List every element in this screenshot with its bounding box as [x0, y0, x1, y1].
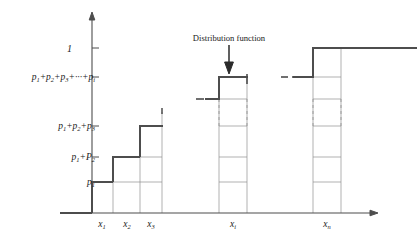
x-tick-label-xi: xi — [230, 219, 236, 229]
x-tick-label-x2: x2 — [123, 219, 130, 229]
y-tick-label-p1p2: p1+P2 — [72, 152, 95, 162]
y-tick-label-p1: p1 — [87, 177, 95, 187]
y-axis-arrowhead — [89, 12, 95, 20]
cdf-step-curve — [60, 48, 417, 213]
x-tick-label-xn: xn — [323, 219, 330, 229]
x-tick-label-x1: x1 — [98, 219, 105, 229]
box-verticals — [113, 48, 341, 213]
annotation-arrow — [225, 45, 234, 74]
x-tick-label-x3: x3 — [147, 219, 154, 229]
y-axis-ticks — [92, 48, 99, 157]
x-axis-arrowhead — [370, 210, 378, 216]
distribution-function-figure: 1 p1+p2+p3+···+pi p1+p2+p3 p1+P2 p1 x1 x… — [0, 0, 417, 244]
distribution-function-annotation: Distribution function — [193, 33, 265, 43]
y-tick-label-p1p2p3: p1+p2+p3 — [58, 121, 95, 131]
y-tick-label-one: 1 — [67, 43, 72, 54]
level-gridlines — [92, 77, 341, 182]
y-tick-label-sum-i: p1+p2+p3+···+pi — [32, 72, 95, 82]
omitted-steps-dashes — [219, 99, 341, 126]
